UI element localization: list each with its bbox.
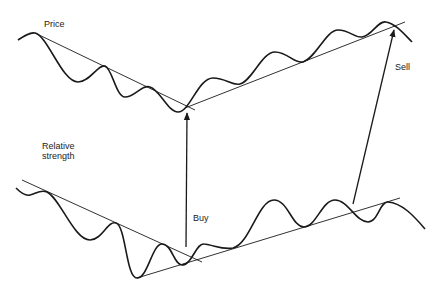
relative-strength-curve — [16, 188, 425, 278]
sell-arrow — [353, 30, 394, 204]
relative-strength-downtrend-line — [22, 180, 202, 262]
price-label: Price — [44, 19, 65, 29]
relative-strength-label-line2: strength — [42, 151, 102, 161]
relative-strength-label: Relative strength — [42, 141, 102, 161]
buy-label: Buy — [193, 213, 209, 223]
diagram-canvas: Price Relative strength Buy Sell — [0, 0, 436, 297]
relative-strength-label-line1: Relative — [42, 141, 102, 151]
price-curve — [18, 22, 412, 112]
buy-arrow — [186, 113, 187, 247]
relative-strength-uptrend-line — [137, 198, 400, 278]
price-downtrend-line — [35, 33, 195, 110]
price-uptrend-line — [185, 22, 405, 108]
sell-label: Sell — [395, 62, 410, 72]
